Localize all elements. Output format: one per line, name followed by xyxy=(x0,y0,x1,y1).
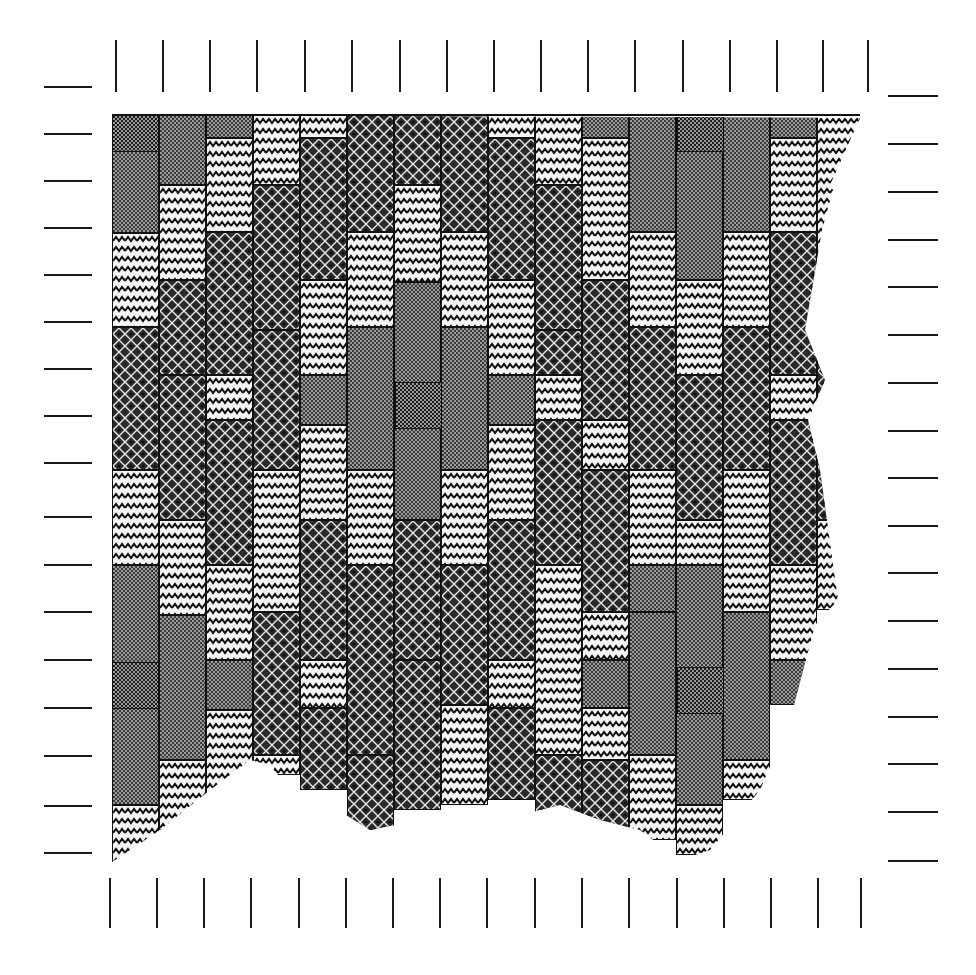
checker-block xyxy=(723,115,770,232)
top-tick xyxy=(822,40,824,92)
right-tick xyxy=(888,716,938,718)
diamond-block xyxy=(206,420,253,565)
top-tick xyxy=(540,40,542,92)
zigzag-block xyxy=(676,520,723,565)
diamond-block xyxy=(253,185,300,330)
checker-block xyxy=(723,612,770,760)
top-tick xyxy=(304,40,306,92)
checker-block xyxy=(159,115,206,185)
top-border-line xyxy=(112,114,860,116)
diamond-block xyxy=(159,280,206,375)
zigzag-block xyxy=(770,375,817,420)
diamond-block xyxy=(535,755,582,815)
top-tick xyxy=(493,40,495,92)
cross-center-motif xyxy=(395,382,442,429)
top-tick xyxy=(351,40,353,92)
checker-block xyxy=(441,327,488,470)
diamond-block xyxy=(159,375,206,520)
right-tick xyxy=(888,763,938,765)
zigzag-block xyxy=(488,115,535,138)
checker-block xyxy=(629,565,676,612)
diamond-block xyxy=(535,185,582,330)
right-tick xyxy=(888,477,938,479)
zigzag-block xyxy=(112,470,159,565)
right-tick xyxy=(888,860,938,862)
right-tick xyxy=(888,382,938,384)
top-tick xyxy=(256,40,258,92)
zigzag-block xyxy=(347,470,394,565)
right-tick xyxy=(888,430,938,432)
bottom-tick xyxy=(486,878,488,928)
zigzag-block xyxy=(300,280,347,375)
right-tick xyxy=(888,239,938,241)
bottom-tick xyxy=(109,878,111,928)
checker-block xyxy=(582,115,629,138)
checker-block xyxy=(629,612,676,755)
cross-center-motif xyxy=(677,105,724,152)
diamond-block xyxy=(300,520,347,660)
left-tick xyxy=(44,659,92,661)
left-tick xyxy=(44,368,92,370)
zigzag-block xyxy=(112,233,159,327)
zigzag-block xyxy=(582,138,629,280)
zigzag-block xyxy=(582,612,629,660)
left-tick xyxy=(44,755,92,757)
left-tick xyxy=(44,852,92,854)
diamond-block xyxy=(441,115,488,232)
diamond-block xyxy=(629,327,676,470)
diamond-block xyxy=(770,420,817,565)
right-tick xyxy=(888,620,938,622)
zigzag-block xyxy=(817,520,860,610)
diamond-block xyxy=(582,760,629,830)
zigzag-block xyxy=(817,115,860,280)
checker-block xyxy=(770,660,817,705)
diamond-block xyxy=(535,420,582,565)
left-tick xyxy=(44,516,92,518)
zigzag-block xyxy=(300,660,347,708)
zigzag-block xyxy=(159,760,206,830)
bottom-tick xyxy=(628,878,630,928)
diamond-block xyxy=(394,115,441,185)
bottom-tick xyxy=(250,878,252,928)
cross-center-motif xyxy=(677,667,724,714)
bottom-tick xyxy=(156,878,158,928)
diamond-block xyxy=(300,708,347,790)
left-tick xyxy=(44,227,92,229)
top-tick xyxy=(867,40,869,92)
left-tick xyxy=(44,707,92,709)
zigzag-block xyxy=(582,708,629,760)
right-tick xyxy=(888,525,938,527)
zigzag-block xyxy=(300,115,347,138)
left-tick xyxy=(44,415,92,417)
right-tick xyxy=(888,95,938,97)
zigzag-block xyxy=(629,470,676,565)
cross-center-motif xyxy=(112,662,159,709)
checker-block xyxy=(159,615,206,760)
right-tick xyxy=(888,286,938,288)
left-tick xyxy=(44,564,92,566)
left-tick xyxy=(44,274,92,276)
zigzag-block xyxy=(723,470,770,612)
zigzag-block xyxy=(535,115,582,185)
zigzag-block xyxy=(441,232,488,327)
left-tick xyxy=(44,462,92,464)
right-tick xyxy=(888,143,938,145)
diamond-block xyxy=(582,470,629,612)
bottom-tick xyxy=(676,878,678,928)
checker-block xyxy=(488,375,535,425)
zigzag-block xyxy=(253,115,300,185)
left-tick xyxy=(44,321,92,323)
bottom-tick xyxy=(203,878,205,928)
diamond-block xyxy=(488,708,535,800)
top-tick xyxy=(634,40,636,92)
top-tick xyxy=(729,40,731,92)
right-tick xyxy=(888,334,938,336)
zigzag-block xyxy=(535,375,582,420)
checker-block xyxy=(582,660,629,708)
zigzag-block xyxy=(582,420,629,470)
diamond-block xyxy=(394,520,441,660)
zigzag-block xyxy=(206,565,253,660)
zigzag-block xyxy=(253,755,300,775)
zigzag-block xyxy=(488,425,535,520)
diamond-block xyxy=(394,660,441,810)
